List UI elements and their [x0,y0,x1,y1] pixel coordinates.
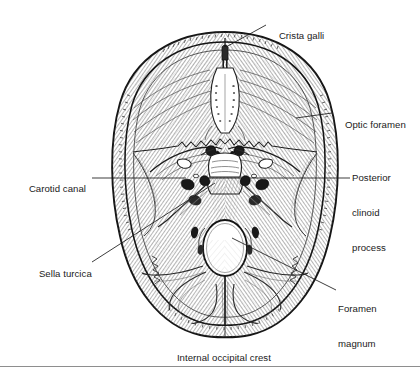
label-posterior-clinoid-process: Posterior clinoid process [352,149,391,277]
label-foramen-magnum-line-1: Foramen [338,303,377,315]
optic-foramen-left [215,151,219,154]
label-posterior-clinoid-line-1: Posterior [352,172,391,184]
label-foramen-magnum-line-2: magnum [338,338,377,350]
label-internal-occipital-crest: Internal occipital crest [166,340,271,374]
label-sella-turcica-text: Sella turcica [39,268,92,279]
label-optic-foramen-text: Optic foramen [345,119,406,130]
posterior-clinoid-left [200,176,210,186]
label-carotid-canal: Carotid canal [18,171,86,206]
optic-foramen-right [230,151,234,154]
label-crista-galli-text: Crista galli [279,30,324,41]
label-internal-occipital-crest-text: Internal occipital crest [177,352,271,363]
bottom-divider [0,366,420,367]
label-optic-foramen: Optic foramen [334,107,406,142]
label-foramen-magnum: Foramen magnum [338,280,377,373]
label-carotid-canal-text: Carotid canal [29,183,86,194]
label-posterior-clinoid-line-2: clinoid [352,207,391,219]
posterior-clinoid-right [240,176,250,186]
label-sella-turcica: Sella turcica [28,256,92,291]
label-crista-galli: Crista galli [268,18,324,53]
cranial-base-figure: Crista galli Optic foramen Posterior cli… [0,0,420,374]
label-posterior-clinoid-line-3: process [352,242,391,254]
